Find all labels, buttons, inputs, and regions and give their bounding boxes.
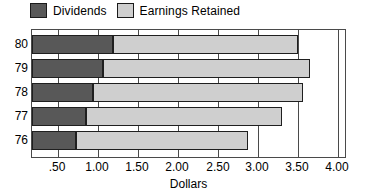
legend-label-earnings-retained: Earnings Retained: [140, 5, 240, 17]
bar-segment-earnings-retained-76: [76, 131, 248, 150]
y-tick-label-77: 77: [2, 110, 28, 122]
x-axis-title: Dollars: [31, 178, 346, 190]
x-tick-label-4: 2.50: [198, 161, 238, 173]
legend-label-dividends: Dividends: [53, 5, 107, 17]
x-tick-label-6: 3.50: [277, 161, 317, 173]
bar-segment-dividends-76: [32, 131, 76, 150]
bar-row-80: [32, 35, 345, 54]
bar-row-78: [32, 83, 345, 102]
dark-swatch-icon: [30, 3, 47, 18]
x-tick-label-5: 3.00: [237, 161, 277, 173]
x-tick-label-3: 2.00: [157, 161, 197, 173]
bar-segment-earnings-retained-80: [113, 35, 298, 54]
x-tick-label-2: 1.50: [117, 161, 157, 173]
bar-row-77: [32, 107, 345, 126]
stacked-bar-chart: Dividends Earnings Retained 80 79 78 77 …: [0, 0, 370, 196]
bar-segment-earnings-retained-79: [103, 59, 310, 78]
legend-item-earnings-retained: Earnings Retained: [117, 3, 240, 18]
bar-segment-earnings-retained-77: [86, 107, 282, 126]
y-tick-label-79: 79: [2, 62, 28, 74]
bar-segment-dividends-78: [32, 83, 93, 102]
x-tick-label-7: 4.00: [317, 161, 357, 173]
bar-row-76: [32, 131, 345, 150]
plot-area: [31, 29, 346, 158]
bar-segment-dividends-77: [32, 107, 86, 126]
y-tick-label-76: 76: [2, 134, 28, 146]
y-tick-label-80: 80: [2, 38, 28, 50]
y-tick-label-78: 78: [2, 86, 28, 98]
bar-row-79: [32, 59, 345, 78]
bar-segment-dividends-80: [32, 35, 113, 54]
bar-segment-dividends-79: [32, 59, 103, 78]
chart-legend: Dividends Earnings Retained: [30, 2, 250, 19]
legend-item-dividends: Dividends: [30, 3, 107, 18]
bar-segment-earnings-retained-78: [93, 83, 303, 102]
x-tick-label-0: .50: [37, 161, 77, 173]
x-tick-label-1: 1.00: [77, 161, 117, 173]
light-swatch-icon: [117, 3, 134, 18]
